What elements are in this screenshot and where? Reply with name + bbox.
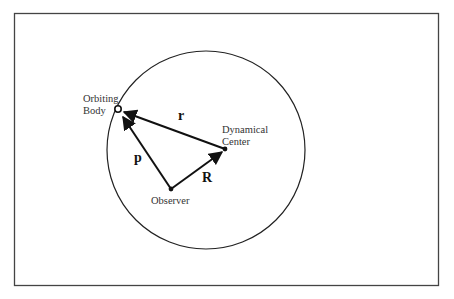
vector-p bbox=[123, 117, 171, 189]
vector-r bbox=[124, 112, 225, 149]
dynamical-center-label-line1: Dynamical bbox=[222, 124, 268, 136]
orbiting-body-marker bbox=[115, 106, 121, 112]
vector-R-label: R bbox=[202, 170, 212, 186]
vector-R bbox=[171, 152, 222, 189]
vector-p-label: p bbox=[134, 150, 142, 166]
observer-label: Observer bbox=[151, 195, 189, 207]
dynamical-center-label-line2: Center bbox=[222, 136, 250, 148]
orbiting-body-label-line1: Orbiting bbox=[83, 93, 119, 105]
orbit-diagram bbox=[0, 0, 454, 299]
orbiting-body-label-line2: Body bbox=[83, 105, 106, 117]
vector-r-label: r bbox=[178, 108, 184, 124]
observer-point bbox=[169, 187, 174, 192]
